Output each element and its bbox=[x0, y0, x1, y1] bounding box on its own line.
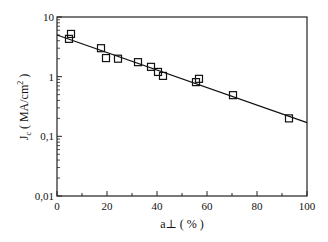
y-axis-tick-labels: 0,010,1110 bbox=[35, 11, 55, 202]
y-axis-ticks bbox=[57, 17, 62, 196]
y-tick-label: 0,1 bbox=[40, 130, 54, 142]
data-markers bbox=[66, 30, 293, 121]
y-axis-label: Jc( MA/cm2 ) bbox=[16, 74, 33, 141]
svg-text:Jc( MA/cm2 ): Jc( MA/cm2 ) bbox=[16, 74, 33, 141]
y-tick-label: 0,01 bbox=[35, 190, 54, 202]
y-axis-label-unit: ( MA/cm bbox=[17, 84, 31, 129]
x-tick-label: 80 bbox=[252, 200, 264, 212]
x-axis-label: a⊥ ( % ) bbox=[160, 217, 204, 231]
data-point-square bbox=[68, 30, 75, 37]
y-tick-label: 10 bbox=[43, 11, 55, 23]
x-tick-label: 20 bbox=[102, 200, 114, 212]
fit-line-segment bbox=[57, 35, 307, 123]
x-axis-ticks bbox=[57, 191, 307, 196]
plot-frame bbox=[57, 17, 307, 196]
x-tick-label: 100 bbox=[299, 200, 316, 212]
data-point-square bbox=[103, 55, 110, 62]
y-tick-label: 1 bbox=[49, 71, 55, 83]
x-tick-label: 40 bbox=[152, 200, 164, 212]
x-tick-label: 60 bbox=[202, 200, 214, 212]
x-axis-tick-labels: 020406080100 bbox=[54, 200, 316, 212]
chart: 020406080100 0,010,1110 a⊥ ( % ) Jc( MA/… bbox=[0, 0, 328, 242]
fit-line bbox=[57, 35, 307, 123]
x-tick-label: 0 bbox=[54, 200, 60, 212]
y-axis-label-sub: c bbox=[24, 132, 33, 136]
y-axis-label-close: ) bbox=[17, 74, 31, 81]
